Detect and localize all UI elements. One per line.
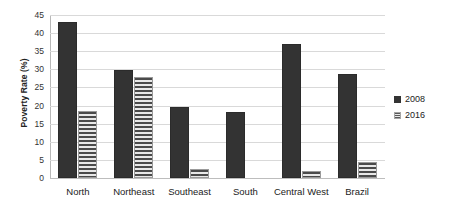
- legend-label-2008: 2008: [405, 94, 425, 104]
- chart-legend: 20082016: [394, 92, 449, 124]
- gridline-0: [50, 178, 385, 179]
- gridline-30: [50, 69, 385, 70]
- striped-gray-square-icon: [394, 112, 401, 119]
- y-tick-label-20: 20: [6, 101, 44, 111]
- y-axis-tick-labels: 454035302520151050: [0, 15, 44, 178]
- legend-item-2016[interactable]: 2016: [394, 108, 449, 122]
- x-label-north: North: [50, 186, 106, 197]
- bar-group-central-west: [282, 15, 321, 178]
- y-tick-label-15: 15: [6, 119, 44, 129]
- bar-group-southeast: [170, 15, 209, 178]
- gridline-15: [50, 124, 385, 125]
- x-label-south: South: [218, 186, 274, 197]
- y-tick-label-35: 35: [6, 46, 44, 56]
- bar-2008-brazil: [338, 74, 357, 178]
- bar-2008-central-west: [282, 44, 301, 178]
- solid-dark-square-icon: [394, 96, 401, 103]
- bar-2008-northeast: [114, 70, 133, 178]
- gridline-25: [50, 87, 385, 88]
- gridline-10: [50, 142, 385, 143]
- legend-item-2008[interactable]: 2008: [394, 92, 449, 106]
- bar-2016-southeast: [190, 169, 209, 178]
- y-tick-label-0: 0: [6, 173, 44, 183]
- bar-2008-north: [58, 22, 77, 178]
- gridline-35: [50, 51, 385, 52]
- bar-2016-northeast: [134, 77, 153, 178]
- gridline-45: [50, 15, 385, 16]
- bar-group-south: [226, 15, 265, 178]
- x-label-northeast: Northeast: [106, 186, 162, 197]
- bar-2008-southeast: [170, 107, 189, 178]
- y-tick-label-30: 30: [6, 64, 44, 74]
- legend-label-2016: 2016: [405, 110, 425, 120]
- y-tick-label-10: 10: [6, 137, 44, 147]
- poverty-rate-bar-chart: Poverty Rate (%) 454035302520151050 Nort…: [0, 0, 449, 212]
- x-label-brazil: Brazil: [329, 186, 385, 197]
- bar-2008-south: [226, 112, 245, 178]
- plot-area: [50, 15, 385, 178]
- x-label-southeast: Southeast: [162, 186, 218, 197]
- bar-2016-central-west: [302, 171, 321, 178]
- y-tick-label-40: 40: [6, 28, 44, 38]
- bar-group-northeast: [114, 15, 153, 178]
- gridline-5: [50, 160, 385, 161]
- bar-group-north: [58, 15, 97, 178]
- x-label-central-west: Central West: [273, 186, 329, 197]
- gridline-20: [50, 106, 385, 107]
- bar-group-brazil: [338, 15, 377, 178]
- bar-2016-north: [78, 111, 97, 178]
- gridline-40: [50, 33, 385, 34]
- bar-2016-brazil: [358, 162, 377, 178]
- y-tick-label-25: 25: [6, 82, 44, 92]
- y-tick-label-45: 45: [6, 10, 44, 20]
- y-tick-label-5: 5: [6, 155, 44, 165]
- x-axis-category-labels: NorthNortheastSoutheastSouthCentral West…: [50, 186, 385, 206]
